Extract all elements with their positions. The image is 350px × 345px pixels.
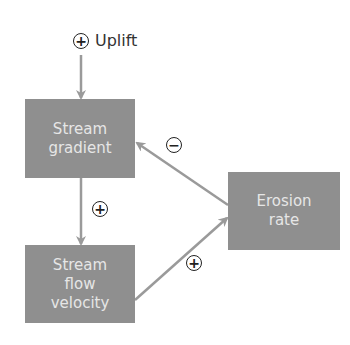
arrow-erosion-to-gradient (137, 143, 228, 205)
node-label-line: Stream (48, 120, 111, 139)
node-label-line: Stream (51, 256, 110, 275)
node-erosion-rate: Erosion rate (228, 172, 340, 250)
node-label-line: rate (256, 211, 311, 230)
arrow-velocity-to-erosion (135, 218, 227, 300)
negative-sign-icon: − (166, 137, 182, 153)
node-stream-gradient: Stream gradient (25, 99, 135, 178)
node-label-line: gradient (48, 139, 111, 158)
node-label-line: Erosion (256, 192, 311, 211)
node-label-line: flow (51, 275, 110, 294)
positive-sign-icon: + (186, 255, 202, 271)
node-label-line: velocity (51, 294, 110, 313)
uplift-label: Uplift (95, 31, 137, 50)
positive-sign-icon: + (73, 33, 89, 49)
node-stream-flow-velocity: Stream flow velocity (25, 245, 135, 323)
positive-sign-icon: + (92, 201, 108, 217)
